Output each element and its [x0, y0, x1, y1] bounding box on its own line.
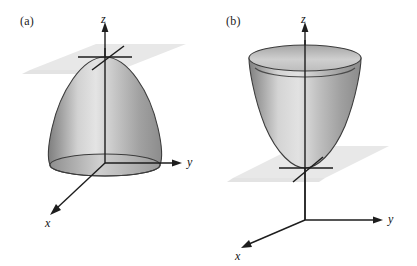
z-axis-label-b: z — [301, 12, 306, 27]
x-axis-arrowhead-b — [241, 240, 252, 248]
y-axis-arrowhead-b — [373, 217, 383, 224]
y-axis-label-a: y — [187, 155, 192, 170]
panel-a-label: (a) — [20, 14, 34, 29]
x-axis-label-b: x — [235, 249, 240, 264]
tangent-plane-b-front — [227, 178, 325, 182]
panel-a-drawing — [0, 0, 209, 266]
x-axis-label-a: x — [45, 216, 50, 231]
x-axis-b — [249, 220, 305, 244]
panel-a: (a) — [0, 0, 209, 266]
panel-b-drawing — [209, 0, 417, 266]
y-axis-arrowhead-a — [172, 160, 182, 167]
panel-b-label: (b) — [226, 14, 241, 29]
z-axis-label-a: z — [101, 12, 106, 27]
figure-container: (a) — [0, 0, 417, 266]
y-axis-label-b: y — [388, 212, 393, 227]
panel-b: (b) — [209, 0, 417, 266]
